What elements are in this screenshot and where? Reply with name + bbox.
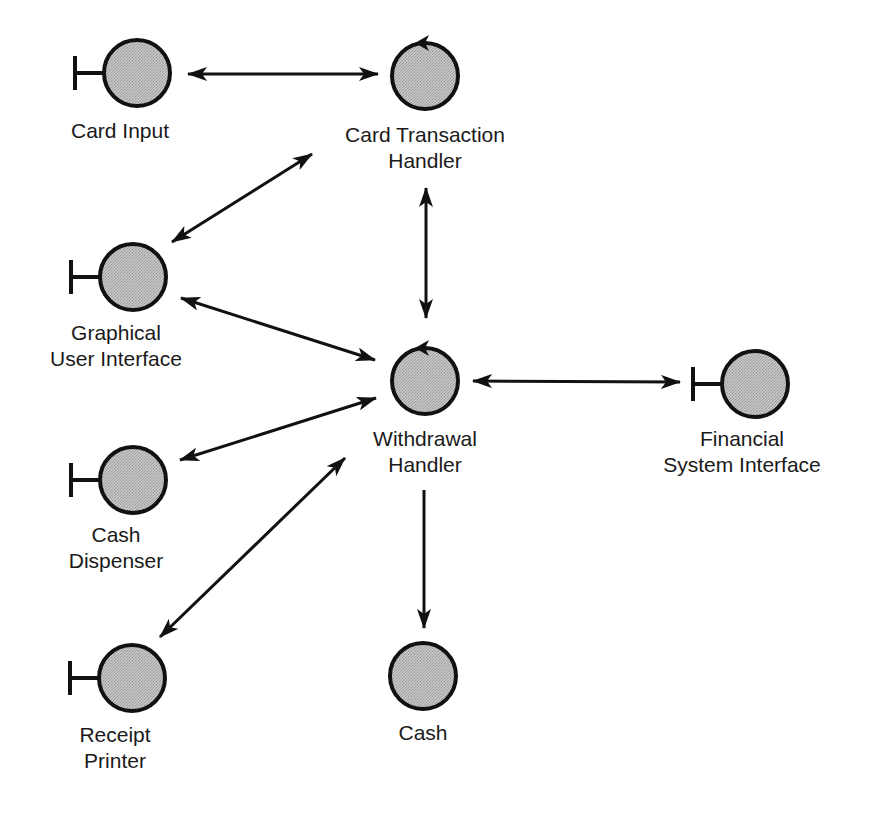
label-line: Graphical: [50, 320, 182, 346]
boundary-circle-icon: [722, 351, 788, 417]
label-line: Cash: [398, 720, 447, 746]
label-line: Handler: [345, 148, 505, 174]
node-card-transaction-handler: [392, 35, 458, 109]
boundary-circle-icon: [100, 244, 166, 310]
node-card-input: [75, 40, 170, 106]
label-line: Dispenser: [69, 548, 164, 574]
control-circle-icon: [392, 43, 458, 109]
node-graphical-user-interface: [71, 244, 166, 310]
label-withdrawal-handler: WithdrawalHandler: [373, 426, 477, 478]
label-line: Financial: [663, 426, 821, 452]
label-line: Handler: [373, 452, 477, 478]
edge-graphical-user-interface-to-withdrawal-handler: [181, 298, 375, 360]
node-withdrawal-handler: [392, 340, 458, 414]
boundary-circle-icon: [100, 447, 166, 513]
node-financial-system-interface: [693, 351, 788, 417]
edge-cash-dispenser-to-withdrawal-handler: [180, 398, 376, 460]
label-cash: Cash: [398, 720, 447, 746]
boundary-circle-icon: [104, 40, 170, 106]
label-line: Receipt: [79, 722, 150, 748]
edge-graphical-user-interface-to-card-transaction-handler: [172, 154, 312, 242]
label-line: Withdrawal: [373, 426, 477, 452]
label-receipt-printer: ReceiptPrinter: [79, 722, 150, 774]
node-receipt-printer: [70, 645, 165, 711]
label-line: User Interface: [50, 346, 182, 372]
label-line: Card Transaction: [345, 122, 505, 148]
label-financial-system-interface: FinancialSystem Interface: [663, 426, 821, 478]
edge-withdrawal-handler-to-financial-system-interface: [473, 381, 680, 382]
label-card-transaction-handler: Card TransactionHandler: [345, 122, 505, 174]
edge-receipt-printer-to-withdrawal-handler: [160, 458, 345, 637]
entity-circle-icon: [390, 643, 456, 709]
label-card-input: Card Input: [71, 118, 169, 144]
node-cash: [390, 643, 456, 709]
node-cash-dispenser: [71, 447, 166, 513]
label-line: Card Input: [71, 118, 169, 144]
label-line: Cash: [69, 522, 164, 548]
label-line: Printer: [79, 748, 150, 774]
label-cash-dispenser: CashDispenser: [69, 522, 164, 574]
label-graphical-user-interface: GraphicalUser Interface: [50, 320, 182, 372]
boundary-circle-icon: [99, 645, 165, 711]
label-line: System Interface: [663, 452, 821, 478]
control-circle-icon: [392, 348, 458, 414]
